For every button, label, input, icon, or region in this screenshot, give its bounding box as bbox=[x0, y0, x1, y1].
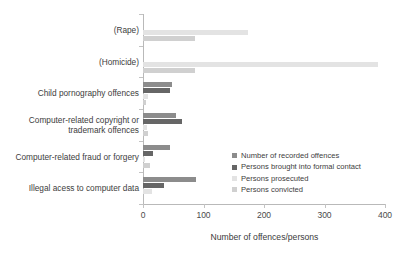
bar bbox=[143, 119, 182, 124]
x-axis-tick-label: 0 bbox=[141, 210, 146, 220]
bar-group bbox=[143, 82, 385, 105]
bar bbox=[143, 151, 153, 156]
legend-item[interactable]: Persons prosecuted bbox=[232, 173, 361, 184]
bar bbox=[143, 163, 150, 168]
bar bbox=[143, 189, 152, 194]
bar-group bbox=[143, 113, 385, 136]
bar bbox=[143, 125, 147, 130]
bar-group bbox=[143, 50, 385, 73]
category-label: Computer-related fraud or forgery bbox=[0, 151, 139, 162]
category-label: (Homicide) bbox=[0, 56, 139, 67]
bar bbox=[143, 36, 195, 41]
x-axis-tick-label: 400 bbox=[378, 210, 392, 220]
bar bbox=[143, 30, 248, 35]
x-axis-tick bbox=[264, 204, 265, 208]
bar-group bbox=[143, 18, 385, 41]
bar bbox=[143, 94, 148, 99]
x-axis-tick bbox=[143, 204, 144, 208]
legend-item[interactable]: Persons brought into formal contact bbox=[232, 161, 361, 172]
x-axis-tick bbox=[325, 204, 326, 208]
category-label: (Rape) bbox=[0, 25, 139, 36]
legend-label: Number of recorded offences bbox=[241, 150, 339, 161]
legend-label: Persons convicted bbox=[241, 184, 303, 195]
x-axis-tick bbox=[204, 204, 205, 208]
bar bbox=[143, 131, 148, 136]
bar-chart: (Rape)(Homicide)Child pornography offenc… bbox=[0, 0, 406, 255]
bar bbox=[143, 88, 170, 93]
bar bbox=[143, 145, 170, 150]
bar bbox=[143, 100, 146, 105]
legend-swatch-icon bbox=[232, 153, 237, 158]
x-axis-tick-label: 300 bbox=[317, 210, 331, 220]
bar bbox=[143, 82, 172, 87]
legend-swatch-icon bbox=[232, 187, 237, 192]
chart-legend: Number of recorded offencesPersons broug… bbox=[232, 150, 361, 196]
bar bbox=[143, 113, 176, 118]
x-axis-title: Number of offences/persons bbox=[143, 232, 386, 242]
legend-swatch-icon bbox=[232, 176, 237, 181]
bar bbox=[143, 62, 378, 67]
bar bbox=[143, 157, 145, 162]
x-axis-line: 0100200300400 bbox=[143, 204, 386, 205]
bar bbox=[143, 177, 196, 182]
legend-item[interactable]: Number of recorded offences bbox=[232, 150, 361, 161]
x-axis-tick-label: 100 bbox=[196, 210, 210, 220]
legend-label: Persons brought into formal contact bbox=[241, 161, 361, 172]
legend-item[interactable]: Persons convicted bbox=[232, 184, 361, 195]
x-axis-tick-label: 200 bbox=[257, 210, 271, 220]
category-label: Child pornography offences bbox=[0, 88, 139, 99]
legend-swatch-icon bbox=[232, 165, 237, 170]
legend-label: Persons prosecuted bbox=[241, 173, 309, 184]
category-label: Computer-related copyright or trademark … bbox=[0, 114, 139, 135]
bar bbox=[143, 68, 195, 73]
category-label: Illegal acess to computer data bbox=[0, 183, 139, 194]
category-axis-labels: (Rape)(Homicide)Child pornography offenc… bbox=[0, 14, 139, 204]
x-axis-tick bbox=[385, 204, 386, 208]
bar bbox=[143, 183, 164, 188]
